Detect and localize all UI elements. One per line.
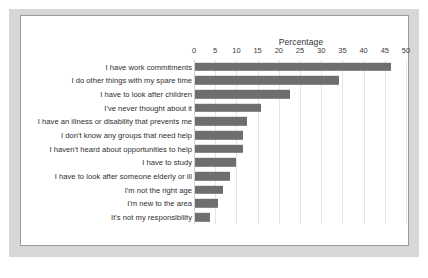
- x-tick-label-40: 40: [359, 46, 367, 55]
- bar: [195, 186, 223, 194]
- x-tick-label-45: 45: [381, 46, 389, 55]
- bar: [195, 199, 218, 207]
- bar: [195, 90, 290, 98]
- x-tick-label-10: 10: [232, 46, 240, 55]
- bar: [195, 76, 339, 84]
- x-tick-label-5: 5: [213, 46, 217, 55]
- category-label: I don't know any groups that need help: [61, 131, 192, 140]
- x-tick-label-20: 20: [275, 46, 283, 55]
- category-label: I have an illness or disability that pre…: [38, 117, 192, 126]
- bar: [195, 158, 236, 166]
- category-label: I do other things with my spare time: [71, 76, 192, 85]
- bar-row: I'm new to the area: [194, 197, 406, 211]
- category-label: I have to look after children: [100, 90, 192, 99]
- bar-row: I've never thought about it: [194, 101, 406, 115]
- bar: [195, 213, 210, 221]
- bar-row: I have an illness or disability that pre…: [194, 115, 406, 129]
- x-tick-label-25: 25: [296, 46, 304, 55]
- bar: [195, 63, 391, 71]
- bar-row: I have work commitments: [194, 60, 406, 74]
- bar-row: I don't know any groups that need help: [194, 128, 406, 142]
- category-label: I haven't heard about opportunities to h…: [50, 144, 192, 153]
- bar-row: I'm not the right age: [194, 183, 406, 197]
- bar-row: I have to study: [194, 156, 406, 170]
- category-label: It's not my responsibility: [111, 213, 192, 222]
- category-label: I have work commitments: [105, 62, 192, 71]
- bar: [195, 172, 230, 180]
- chart-card: Percentage 05101520253035404550 I have w…: [20, 15, 409, 246]
- x-tick-label-30: 30: [317, 46, 325, 55]
- bar-row: I do other things with my spare time: [194, 74, 406, 88]
- bar-row: I have to look after children: [194, 87, 406, 101]
- bar: [195, 145, 243, 153]
- x-tick-label-35: 35: [338, 46, 346, 55]
- category-label: I'm not the right age: [125, 185, 192, 194]
- bar: [195, 117, 247, 125]
- category-label: I have to look after someone elderly or …: [55, 172, 192, 181]
- gridline-50: [406, 60, 407, 224]
- bar: [195, 131, 243, 139]
- x-tick-label-15: 15: [253, 46, 261, 55]
- x-tick-label-50: 50: [402, 46, 410, 55]
- bar-row: I have to look after someone elderly or …: [194, 169, 406, 183]
- bar: [195, 104, 261, 112]
- category-label: I've never thought about it: [104, 103, 192, 112]
- category-label: I have to study: [142, 158, 192, 167]
- chart-plot-container: Percentage 05101520253035404550 I have w…: [21, 16, 408, 245]
- bar-row: It's not my responsibility: [194, 210, 406, 224]
- slide-background: Percentage 05101520253035404550 I have w…: [9, 9, 419, 257]
- bar-row: I haven't heard about opportunities to h…: [194, 142, 406, 156]
- x-tick-label-0: 0: [192, 46, 196, 55]
- category-label: I'm new to the area: [127, 199, 192, 208]
- plot-area: 05101520253035404550 I have work commitm…: [194, 60, 406, 224]
